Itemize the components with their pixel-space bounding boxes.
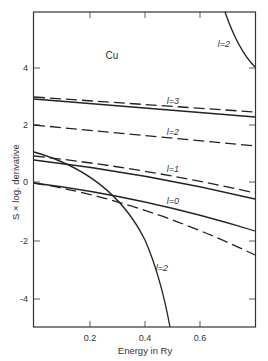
y-tick-label: 2 [23, 120, 28, 130]
x-axis-label: Energy in Ry [118, 345, 173, 356]
x-tick-label: 0.4 [139, 333, 152, 343]
curve-label-l2-dashed: l=2 [167, 127, 179, 137]
x-tick-label: 0.6 [194, 333, 207, 343]
curve-l0-solid [34, 183, 255, 231]
curve-label-l2-steep: l=2 [156, 263, 168, 273]
plot-frame [34, 12, 256, 327]
y-tick-label: -4 [20, 294, 28, 304]
curve-l2-dashed [34, 125, 255, 146]
curve-label-l1: l=1 [167, 164, 179, 174]
element-label: Cu [106, 50, 119, 61]
y-tick-label: 4 [23, 63, 28, 73]
curve-label-l2-upper: l=2 [218, 39, 230, 49]
y-tick-label: 0 [23, 177, 28, 187]
log-derivative-chart: 0.2 0.4 0.6 4 2 0 -2 -4 Energy in Ry S ×… [0, 0, 268, 361]
curve-label-l0: l=0 [167, 196, 179, 206]
x-tick-label: 0.2 [84, 333, 97, 343]
curve-label-l3: l=3 [167, 96, 179, 106]
curve-l2-steep-solid [34, 152, 170, 327]
curve-l0-dashed [34, 183, 255, 255]
y-axis-label: S × log. derivative [10, 144, 21, 220]
curve-l3-solid [34, 99, 255, 117]
curve-l1-solid [34, 160, 255, 199]
y-ticks [34, 68, 256, 299]
curve-l3-dashed [34, 97, 255, 112]
y-tick-label: -2 [20, 236, 28, 246]
